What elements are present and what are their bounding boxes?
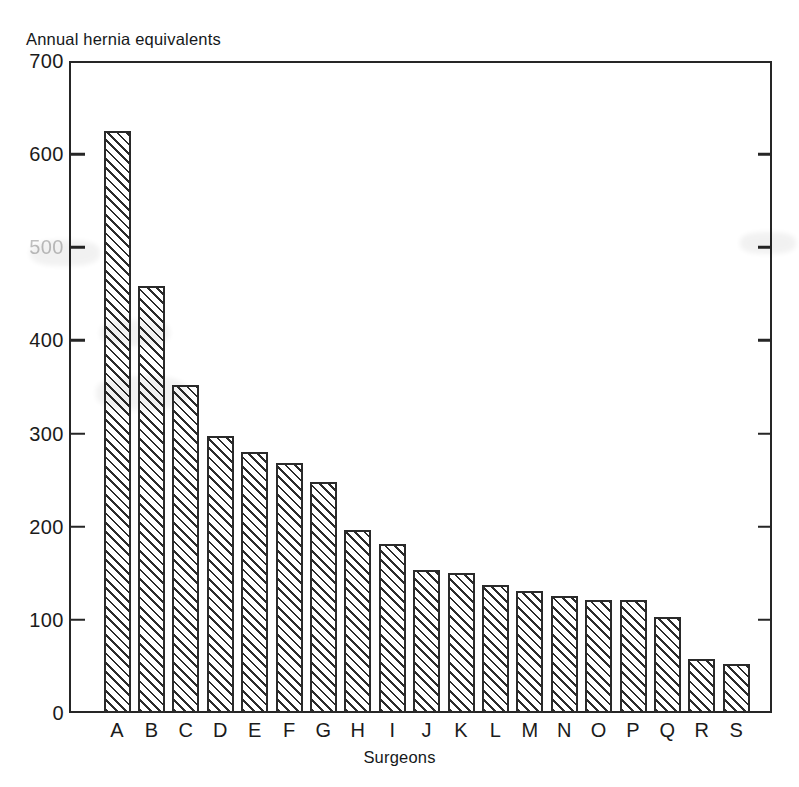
x-tick-label: K	[454, 719, 467, 742]
bar-l	[482, 585, 509, 713]
x-tick-label: D	[213, 719, 227, 742]
x-tick-label: B	[145, 719, 158, 742]
x-tick-label: O	[591, 719, 607, 742]
bar-f	[276, 463, 303, 713]
bar-g	[310, 482, 337, 713]
x-tick-label: N	[557, 719, 571, 742]
bar-series	[0, 0, 799, 787]
bar-chart-figure: Annual hernia equivalents 70060050040030…	[0, 0, 799, 787]
bar-q	[654, 617, 681, 713]
x-tick-label: J	[422, 719, 432, 742]
bar-c	[172, 385, 199, 713]
x-tick-label: H	[351, 719, 365, 742]
x-tick-label: Q	[660, 719, 676, 742]
bar-j	[413, 570, 440, 713]
x-tick-label: F	[283, 719, 295, 742]
bar-n	[551, 596, 578, 713]
bar-p	[620, 600, 647, 713]
x-tick-label: S	[730, 719, 743, 742]
x-tick-label: R	[695, 719, 709, 742]
bar-e	[241, 452, 268, 713]
bar-i	[379, 544, 406, 713]
bar-r	[688, 659, 715, 713]
bar-a	[104, 131, 131, 713]
x-tick-label: P	[626, 719, 639, 742]
bar-m	[516, 591, 543, 713]
x-tick-label: M	[521, 719, 538, 742]
x-tick-label: G	[316, 719, 332, 742]
x-tick-label: C	[179, 719, 193, 742]
bar-d	[207, 436, 234, 713]
x-tick-label: A	[110, 719, 123, 742]
bar-b	[138, 286, 165, 713]
bar-k	[448, 573, 475, 713]
bar-o	[585, 600, 612, 713]
x-tick-label: L	[490, 719, 501, 742]
x-tick-label: I	[389, 719, 395, 742]
bar-s	[723, 664, 750, 713]
x-tick-label: E	[248, 719, 261, 742]
x-axis-title: Surgeons	[0, 748, 799, 767]
bar-h	[344, 530, 371, 713]
